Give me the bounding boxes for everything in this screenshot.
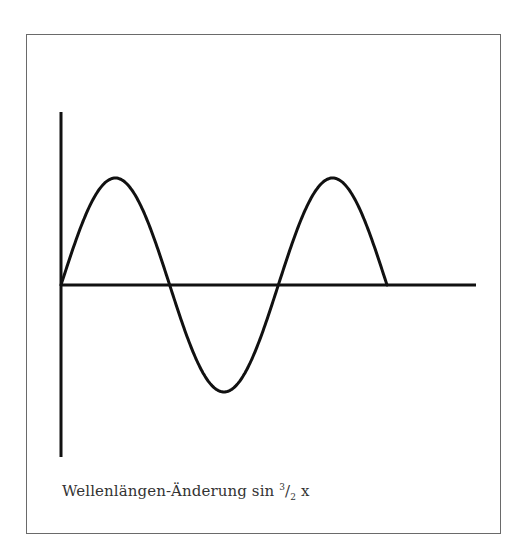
figure-caption: Wellenlängen-Änderung sin 3/2 x	[62, 482, 309, 500]
fraction-denominator: 2	[290, 492, 296, 502]
caption-prefix: Wellenlängen-Änderung sin	[62, 482, 274, 500]
caption-fraction: 3/2	[279, 482, 296, 500]
caption-variable: x	[301, 482, 310, 500]
